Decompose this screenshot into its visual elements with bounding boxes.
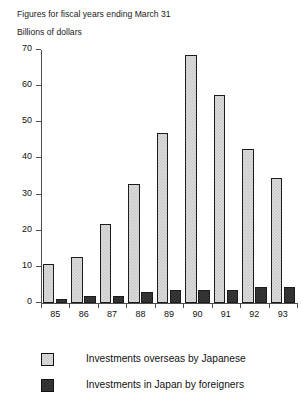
bar-group bbox=[98, 50, 126, 303]
bar-group bbox=[183, 50, 211, 303]
x-axis-tick-label: 90 bbox=[183, 309, 211, 320]
bar-group bbox=[69, 50, 97, 303]
x-axis-tick bbox=[69, 303, 70, 308]
legend-item: Investments in Japan by foreigners bbox=[41, 376, 291, 401]
bar-investments-overseas bbox=[157, 133, 169, 303]
x-axis-tick bbox=[155, 303, 156, 308]
bar-group bbox=[240, 50, 268, 303]
y-axis-tick-label: 10 bbox=[22, 260, 32, 271]
x-axis-tick-label: 87 bbox=[98, 309, 126, 320]
bar-investments-overseas bbox=[271, 178, 283, 303]
x-axis-line bbox=[41, 303, 297, 304]
y-axis-tick-label: 0 bbox=[27, 296, 32, 307]
y-axis-tick-label: 40 bbox=[22, 151, 32, 162]
bar-investments-in-japan bbox=[227, 290, 239, 303]
x-axis-tick-label: 88 bbox=[126, 309, 154, 320]
bar-investments-in-japan bbox=[113, 296, 125, 303]
bar-investments-in-japan bbox=[84, 296, 96, 303]
legend-label: Investments in Japan by foreigners bbox=[86, 377, 244, 393]
y-axis-tick-label: 30 bbox=[22, 188, 32, 199]
x-axis-tick bbox=[212, 303, 213, 308]
bar-investments-in-japan bbox=[56, 299, 68, 303]
x-axis-tick-label: 86 bbox=[69, 309, 97, 320]
plot-area: 010203040506070 858687888990919293 bbox=[41, 50, 297, 304]
bar-investments-overseas bbox=[43, 264, 55, 303]
legend-swatch-icon bbox=[41, 353, 54, 366]
investment-bar-chart-figure: Figures for fiscal years ending March 31… bbox=[0, 0, 305, 401]
bar-investments-overseas bbox=[100, 224, 112, 304]
y-axis-tick-label: 20 bbox=[22, 224, 32, 235]
x-axis-tick bbox=[183, 303, 184, 308]
bar-investments-in-japan bbox=[284, 287, 296, 303]
y-axis-tick-label: 70 bbox=[22, 43, 32, 54]
x-axis-tick-label: 91 bbox=[212, 309, 240, 320]
y-axis-tick-label: 50 bbox=[22, 115, 32, 126]
bar-investments-overseas bbox=[214, 95, 226, 303]
bar-investments-in-japan bbox=[255, 287, 267, 303]
x-axis-tick bbox=[269, 303, 270, 308]
bar-investments-overseas bbox=[185, 55, 197, 303]
y-axis-tick-label: 60 bbox=[22, 79, 32, 90]
bar-group bbox=[269, 50, 297, 303]
legend-item: Investments overseas by Japanese bbox=[41, 350, 291, 376]
x-axis-tick-label: 93 bbox=[269, 309, 297, 320]
units-label: Billions of dollars bbox=[17, 27, 82, 37]
x-axis-tick-label: 92 bbox=[240, 309, 268, 320]
x-axis-tick bbox=[41, 303, 42, 308]
bar-group bbox=[155, 50, 183, 303]
chart-legend: Investments overseas by JapaneseInvestme… bbox=[41, 350, 291, 401]
bar-investments-overseas bbox=[128, 184, 140, 303]
bar-investments-overseas bbox=[242, 149, 254, 303]
bar-investments-in-japan bbox=[170, 290, 182, 303]
bar-group bbox=[212, 50, 240, 303]
x-axis-tick bbox=[297, 303, 298, 308]
fiscal-year-note: Figures for fiscal years ending March 31 bbox=[17, 9, 171, 19]
bar-group bbox=[126, 50, 154, 303]
x-axis-tick bbox=[240, 303, 241, 308]
bar-investments-in-japan bbox=[141, 292, 153, 303]
bar-investments-in-japan bbox=[198, 290, 210, 303]
bar-group bbox=[41, 50, 69, 303]
legend-swatch-icon bbox=[41, 379, 54, 392]
legend-label: Investments overseas by Japanese bbox=[86, 351, 246, 367]
x-axis-tick-label: 89 bbox=[155, 309, 183, 320]
x-axis-tick bbox=[98, 303, 99, 308]
bar-investments-overseas bbox=[71, 257, 83, 303]
x-axis-tick bbox=[126, 303, 127, 308]
x-axis-tick-label: 85 bbox=[41, 309, 69, 320]
